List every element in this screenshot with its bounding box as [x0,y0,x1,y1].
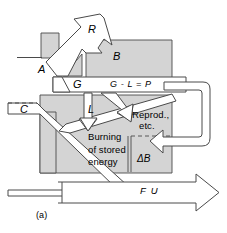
label-burning-line2: of stored [88,145,126,155]
label-radiation: R [88,24,96,35]
label-burning-line3: energy [88,157,118,167]
label-absorbed: A [38,64,45,75]
diagram-canvas [0,0,227,233]
label-loss: L [88,104,94,115]
label-burning-line1: Burning [88,132,121,142]
label-biomass: B [113,51,120,62]
label-biomass-change: ΔB [137,154,151,164]
label-fu: F U [140,186,159,196]
energy-flow-figure: B A R C G G - L = P L Reprod., etc. Burn… [0,0,227,233]
figure-caption: (a) [36,211,47,220]
label-reproduction-line1: Reprod., [132,110,169,120]
label-consumption: C [20,104,28,115]
label-reproduction-line2: etc. [139,121,155,131]
label-gross-production: G [73,79,82,90]
label-net-production-equation: G - L = P [110,80,152,89]
